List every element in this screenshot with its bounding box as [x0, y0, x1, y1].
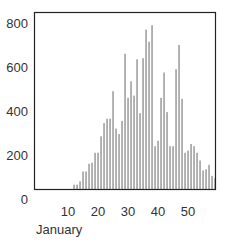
bar	[79, 181, 80, 189]
bar	[73, 185, 74, 189]
y-tick-label: 400	[6, 104, 28, 119]
bar	[148, 42, 149, 189]
bar	[130, 81, 131, 189]
bar	[184, 153, 185, 189]
bar	[133, 96, 134, 189]
x-tick-label: 40	[151, 204, 165, 219]
bar	[121, 121, 122, 189]
bar	[136, 59, 137, 189]
bar	[115, 129, 116, 189]
bar	[145, 30, 146, 189]
bar	[100, 136, 101, 189]
x-tick-label: 50	[181, 204, 195, 219]
bar	[94, 153, 95, 189]
x-tick-label: 10	[61, 204, 75, 219]
bar	[85, 172, 86, 190]
bar-series	[73, 25, 215, 189]
bar	[169, 146, 170, 189]
x-tick-label: 30	[121, 204, 135, 219]
bar	[163, 73, 164, 190]
y-tick-label: 0	[21, 192, 28, 207]
bar	[76, 185, 77, 189]
bar	[106, 119, 107, 189]
bar	[199, 161, 200, 190]
x-tick-label: 20	[91, 204, 105, 219]
bar	[103, 123, 104, 189]
y-tick-label: 600	[6, 60, 28, 75]
bar	[175, 69, 176, 189]
bar	[187, 151, 188, 189]
bar	[205, 169, 206, 189]
bar	[109, 119, 110, 189]
bar	[202, 170, 203, 189]
bar	[208, 165, 209, 189]
bar	[112, 91, 113, 189]
bar	[142, 58, 143, 189]
bar	[211, 176, 212, 189]
bar	[124, 54, 125, 189]
y-axis-tick-labels: 0200400600800	[6, 16, 28, 207]
y-tick-label: 800	[6, 16, 28, 31]
x-axis-label: January	[36, 222, 83, 237]
bar	[196, 153, 197, 189]
bar	[190, 144, 191, 189]
y-tick-label: 200	[6, 148, 28, 163]
bar	[181, 99, 182, 189]
bar	[97, 153, 98, 189]
bar	[127, 98, 128, 189]
bar	[193, 146, 194, 189]
bar	[118, 134, 119, 189]
bar	[157, 141, 158, 189]
bar-chart: 0200400600800 1020304050 January	[0, 0, 227, 243]
bar	[166, 112, 167, 189]
bar	[160, 98, 161, 189]
x-axis-tick-labels: 1020304050	[61, 204, 195, 219]
bar	[172, 146, 173, 189]
bar	[154, 146, 155, 189]
bar	[91, 163, 92, 189]
bar	[139, 113, 140, 189]
bar	[151, 25, 152, 189]
bar	[178, 45, 179, 189]
bar	[82, 172, 83, 190]
bar	[88, 164, 89, 189]
